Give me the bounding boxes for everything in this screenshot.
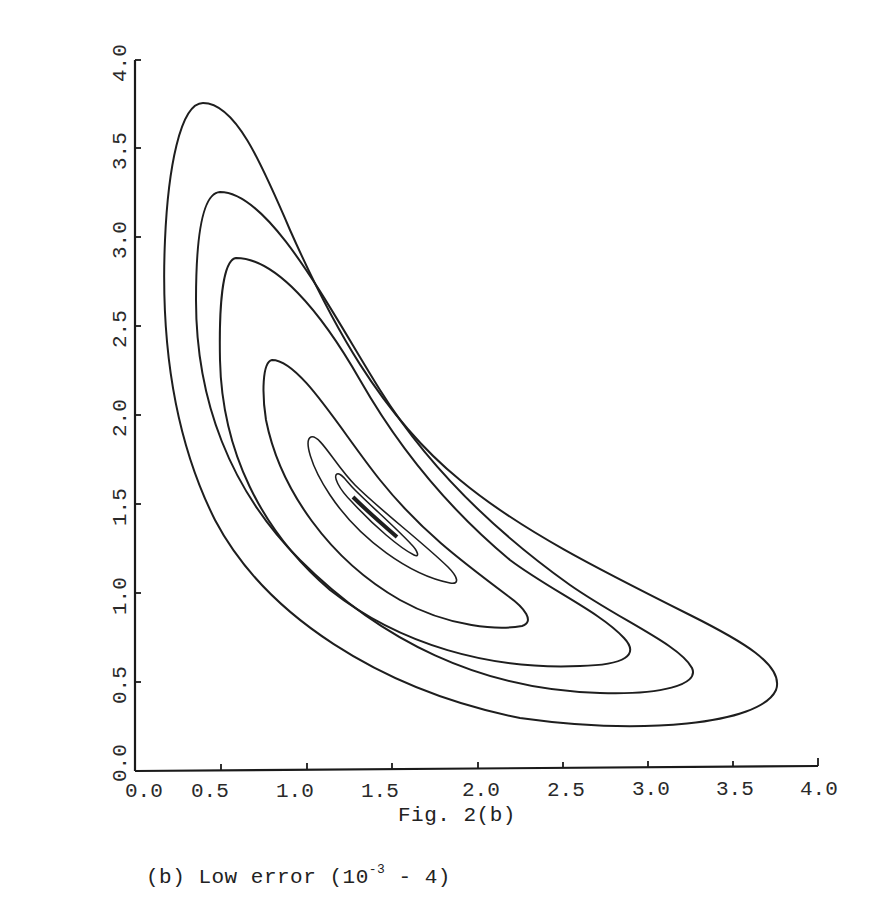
x-tick-label: 2.0	[462, 779, 500, 802]
x-tick-label: 4.0	[800, 778, 838, 801]
y-tick-label: 1.0	[109, 577, 132, 615]
x-axis	[135, 766, 818, 771]
y-tick-label: 3.5	[109, 132, 132, 170]
x-tick-label: 2.5	[547, 779, 585, 802]
y-tick-labels: 0.0 0.5 1.0 1.5 2.0 2.5 3.0 3.5 4.0	[109, 44, 132, 782]
contour-lines	[164, 103, 777, 726]
figure-label: Fig. 2(b)	[398, 804, 516, 827]
axes	[135, 60, 818, 771]
y-tick-label: 0.0	[109, 744, 132, 782]
x-tick-label: 0.0	[125, 780, 163, 803]
contour-level-6	[336, 474, 418, 556]
caption-exponent: -3	[369, 862, 386, 877]
contour-level-4	[264, 360, 528, 628]
contour-level-1	[164, 103, 777, 726]
x-tick-label: 0.5	[191, 780, 229, 803]
y-tick-label: 1.5	[109, 488, 132, 526]
caption-suffix: - 4)	[385, 866, 451, 889]
x-tick-label: 1.0	[276, 780, 314, 803]
y-tick-label: 4.0	[109, 44, 132, 82]
y-tick-label: 2.5	[109, 310, 132, 348]
x-tick-labels: 0.0 0.5 1.0 1.5 2.0 2.5 3.0 3.5 4.0	[125, 778, 838, 803]
figure-caption: (b) Low error (10-3 - 4)	[146, 864, 451, 889]
x-tick-label: 3.5	[716, 778, 754, 801]
caption-prefix: (b) Low error (10	[146, 866, 369, 889]
y-tick-label: 3.0	[109, 221, 132, 259]
contour-level-5	[308, 437, 456, 584]
y-tick-label: 2.0	[109, 399, 132, 437]
contour-plot: 0.0 0.5 1.0 1.5 2.0 2.5 3.0 3.5 4.0 0.0 …	[0, 0, 877, 905]
y-tick-label: 0.5	[109, 666, 132, 704]
x-tick-label: 1.5	[361, 780, 399, 803]
x-tick-label: 3.0	[632, 778, 670, 801]
